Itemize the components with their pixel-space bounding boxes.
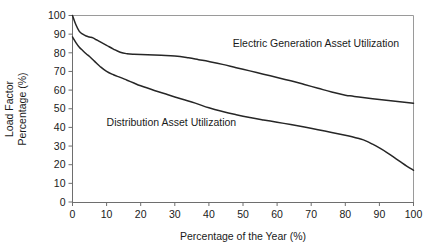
y-tick-label: 80 [54,47,66,59]
load-factor-line-chart: 0102030405060708090100 01020304050607080… [0,0,437,252]
y-tick-label: 60 [54,84,66,96]
chart-container: 0102030405060708090100 01020304050607080… [0,0,437,252]
y-tick-label: 90 [54,28,66,40]
x-tick-label: 50 [237,208,249,220]
x-tick-label: 70 [305,208,317,220]
y-tick-label: 50 [54,102,66,114]
y-tick-label: 0 [60,196,66,208]
x-tick-label: 90 [374,208,386,220]
x-tick-label: 80 [339,208,351,220]
y-axis-title-line1: Load Factor [3,80,15,137]
x-axis-title: Percentage of the Year (%) [180,230,306,242]
y-tick-label: 10 [54,177,66,189]
x-tick-label: 60 [271,208,283,220]
x-tick-label: 10 [101,208,113,220]
y-tick-label: 70 [54,65,66,77]
x-tick-label: 40 [203,208,215,220]
y-tick-label: 20 [54,158,66,170]
y-axis-title: Load Factor Percentage (%) [3,73,28,146]
y-tick-label: 30 [54,140,66,152]
x-tick-label: 0 [70,208,76,220]
x-tick-label: 30 [169,208,181,220]
x-tick-label: 20 [135,208,147,220]
y-axis-title-line2: Percentage (%) [16,73,28,146]
y-tick-label: 100 [48,9,66,21]
y-tick-label: 40 [54,121,66,133]
series-label-electric-generation: Electric Generation Asset Utilization [233,37,399,49]
series-label-distribution: Distribution Asset Utilization [107,116,237,128]
x-tick-label: 100 [405,208,423,220]
